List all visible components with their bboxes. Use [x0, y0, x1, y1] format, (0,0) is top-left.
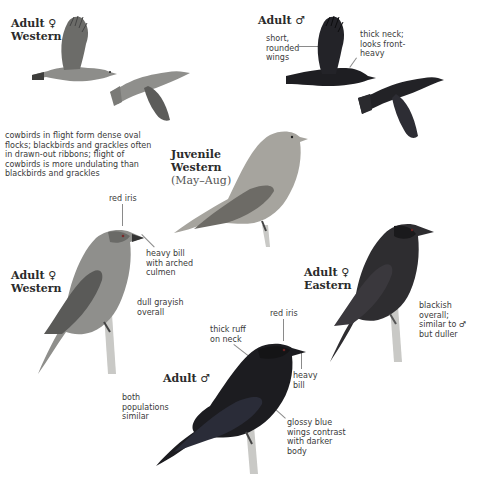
note-heavy-bill: heavy bill with arched culmen — [146, 249, 193, 278]
bird-perched-female-eastern — [328, 216, 440, 366]
bird-perched-female-western — [36, 218, 148, 378]
note-flight-behavior: cowbirds in flight form dense oval flock… — [5, 131, 151, 179]
bird-perched-male — [154, 336, 310, 476]
note-red-iris-male: red iris — [270, 309, 298, 319]
bird-flight-male-2 — [356, 74, 446, 148]
bird-flight-female-western-2 — [108, 64, 194, 124]
bird-juvenile-western — [170, 125, 310, 250]
field-guide-plate: Adult ♀ Western Adult ♂ short, rounded w… — [0, 0, 483, 477]
note-red-iris: red iris — [109, 194, 137, 204]
